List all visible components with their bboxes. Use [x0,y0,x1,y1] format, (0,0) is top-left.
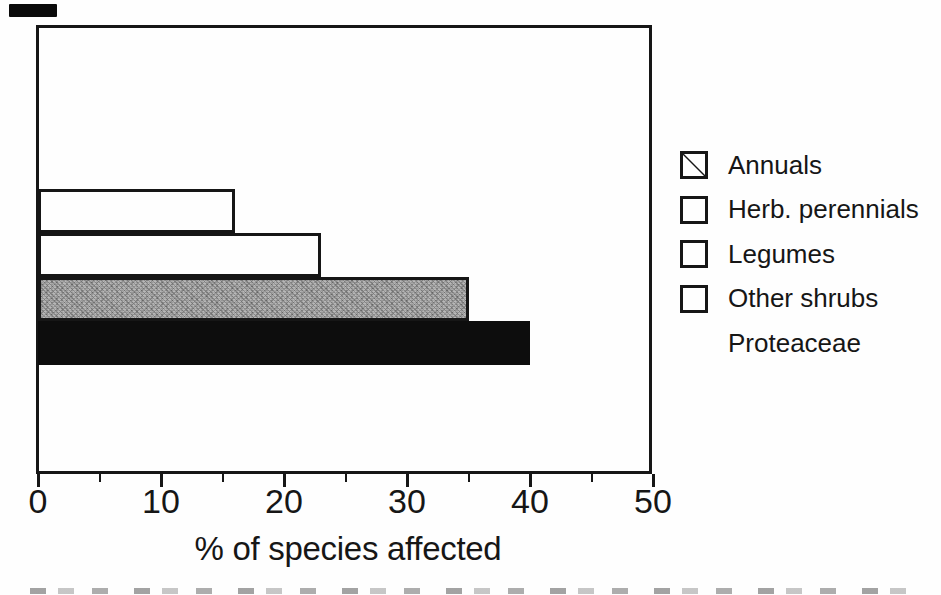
x-tick-label-30: 30 [367,483,447,519]
x-minor-tick-5 [99,474,101,482]
legend-item-legumes: Legumes [680,240,835,268]
legend-item-herb-perennials: Herb. perennials [680,196,919,224]
legend-label: Other shrubs [728,283,878,314]
x-tick-label-10: 10 [121,483,201,519]
x-minor-tick-15 [222,474,224,482]
legend-swatch-white-icon [680,196,708,224]
scan-artifact-top-left [9,4,57,17]
x-minor-tick-35 [468,474,470,482]
scan-artifact-caption-remnant [30,588,923,594]
x-tick-label-0: 0 [0,483,78,519]
legend-label: Annuals [728,150,822,181]
legend-item-other-shrubs: Other shrubs [680,285,878,313]
legend-swatch-stipple-gray-icon [680,285,708,313]
x-axis-label: % of species affected [148,530,548,568]
bar-proteaceae [38,321,530,365]
legend-item-annuals: Annuals [680,151,822,179]
x-tick-label-20: 20 [244,483,324,519]
x-tick-label-40: 40 [490,483,570,519]
legend-swatch-white-icon [680,240,708,268]
x-minor-tick-25 [345,474,347,482]
bar-other-shrubs [38,277,469,321]
legend-label: Proteaceae [728,328,861,359]
legend-item-proteaceae: Proteaceae [680,329,861,357]
x-minor-tick-45 [591,474,593,482]
bar-legumes [38,233,321,277]
legend-label: Legumes [728,239,835,270]
legend-swatch-black-icon [680,329,708,357]
bar-chart-figure: 01020304050 % of species affected Annual… [0,0,941,595]
legend: AnnualsHerb. perennialsLegumesOther shru… [680,0,930,595]
legend-label: Herb. perennials [728,194,919,225]
bar-herb-perennials [38,189,235,233]
legend-swatch-white-diagonal-icon [680,151,708,179]
